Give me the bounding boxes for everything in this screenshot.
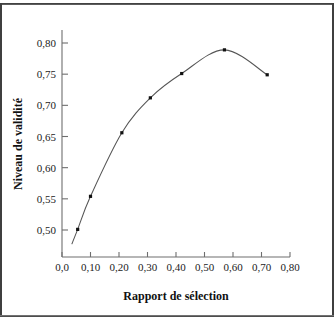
chart-plot-area: 0,500,550,600,650,700,750,80 0,00,100,20… (0, 0, 334, 317)
y-axis-title: Niveau de validité (11, 97, 25, 190)
x-tick-label: 0,40 (166, 261, 186, 273)
y-tick-label: 0,60 (37, 162, 57, 174)
x-tick-label: 0,80 (280, 261, 300, 273)
data-point-marker (76, 228, 79, 231)
data-point-marker (266, 73, 269, 76)
x-axis-title: Rapport de sélection (123, 289, 229, 303)
y-tick-label: 0,50 (37, 224, 57, 236)
data-point-marker (149, 96, 152, 99)
x-tick-label: 0,50 (195, 261, 215, 273)
data-point-marker (120, 131, 123, 134)
y-axis-ticks: 0,500,550,600,650,700,750,80 (37, 37, 68, 236)
y-tick-label: 0,75 (37, 68, 57, 80)
x-tick-label: 0,70 (252, 261, 272, 273)
data-point-marker (180, 72, 183, 75)
x-tick-label: 0,30 (138, 261, 158, 273)
y-tick-label: 0,70 (37, 99, 57, 111)
y-tick-label: 0,80 (37, 37, 57, 49)
y-tick-label: 0,65 (37, 131, 57, 143)
data-series-curve (72, 50, 267, 244)
data-point-marker (223, 48, 226, 51)
data-point-markers (76, 48, 269, 231)
figure-container: 0,500,550,600,650,700,750,80 0,00,100,20… (0, 0, 334, 317)
x-axis-ticks: 0,00,100,200,300,400,500,600,700,80 (55, 252, 300, 273)
data-point-marker (89, 195, 92, 198)
x-tick-label: 0,60 (223, 261, 243, 273)
x-tick-label: 0,0 (55, 261, 69, 273)
x-tick-label: 0,10 (81, 261, 101, 273)
y-tick-label: 0,55 (37, 193, 57, 205)
x-tick-label: 0,20 (109, 261, 129, 273)
